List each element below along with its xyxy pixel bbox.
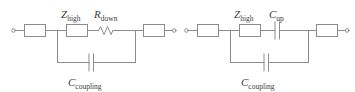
right-zhigh-label: Zhigh <box>234 8 254 23</box>
circuit-right <box>185 22 349 71</box>
right-ccoupling-label: Ccoupling <box>241 76 275 91</box>
right-terminal-in[interactable] <box>185 29 189 33</box>
left-terminal-in[interactable] <box>12 29 16 33</box>
left-zhigh-label: Zhigh <box>61 8 81 23</box>
right-terminal-out[interactable] <box>345 29 349 33</box>
left-rdown-resistor[interactable] <box>99 27 114 35</box>
circuit-diagram-canvas: Zhigh Rdown Ccoupling Zhigh Cup Ccouplin… <box>0 0 355 92</box>
left-rdown-label: Rdown <box>93 8 118 23</box>
left-box-out[interactable] <box>144 25 165 37</box>
circuit-left <box>12 25 176 72</box>
right-zhigh-box[interactable] <box>240 25 261 37</box>
left-box-in[interactable] <box>25 25 46 37</box>
left-terminal-out[interactable] <box>172 29 176 33</box>
right-box-out[interactable] <box>317 25 338 37</box>
circuit-figure: Zhigh Rdown Ccoupling Zhigh Cup Ccouplin… <box>0 0 355 92</box>
left-zhigh-box[interactable] <box>67 25 88 37</box>
right-cup-label: Cup <box>269 8 284 23</box>
right-box-in[interactable] <box>198 25 219 37</box>
left-ccoupling-label: Ccoupling <box>68 76 102 91</box>
